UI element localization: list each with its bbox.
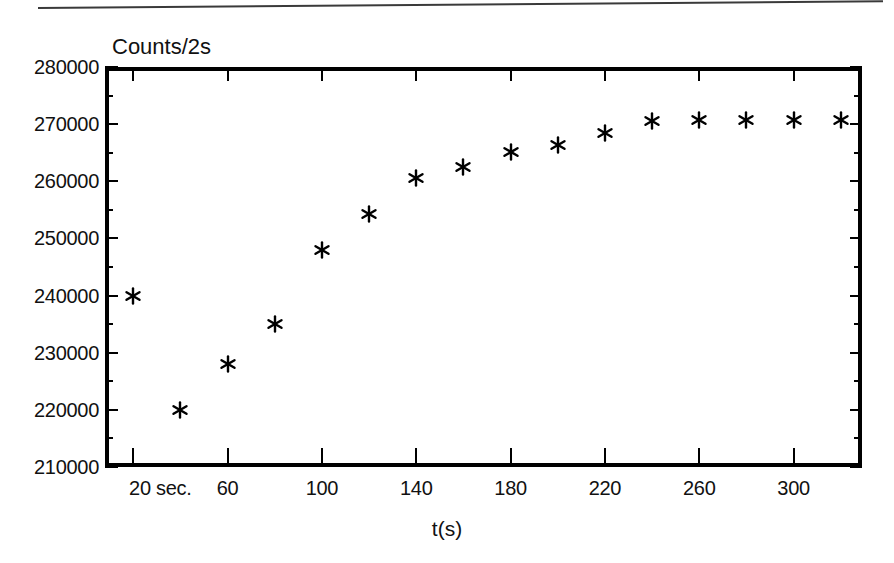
data-point-marker xyxy=(219,355,237,373)
x-axis-tick-label: 260 xyxy=(683,478,715,498)
data-point-marker xyxy=(785,111,803,129)
data-point-marker xyxy=(737,111,755,129)
x-axis-tick-label: 180 xyxy=(494,478,526,498)
data-point-marker xyxy=(454,158,472,176)
data-point-marker xyxy=(360,205,378,223)
data-point-marker xyxy=(643,112,661,130)
x-axis-tick-label: 60 xyxy=(217,478,239,498)
x-axis-tick-label: 20 sec. xyxy=(129,478,191,498)
data-point-marker xyxy=(407,169,425,187)
x-axis-tick-labels: 20 sec.60100140180220260300 xyxy=(0,0,894,563)
data-point-marker xyxy=(124,287,142,305)
x-axis-tick-label: 300 xyxy=(777,478,809,498)
x-axis-tick-label: 100 xyxy=(306,478,338,498)
x-axis-tick-label: 220 xyxy=(589,478,621,498)
data-point-marker xyxy=(313,241,331,259)
data-point-marker xyxy=(832,111,850,129)
x-axis-tick-label: 140 xyxy=(400,478,432,498)
data-point-marker xyxy=(266,315,284,333)
x-axis-title: t(s) xyxy=(432,518,462,539)
data-point-marker xyxy=(502,143,520,161)
data-point-marker xyxy=(596,124,614,142)
data-point-marker xyxy=(549,136,567,154)
data-point-marker xyxy=(690,111,708,129)
data-point-marker xyxy=(171,401,189,419)
chart-figure: Counts/2s 210000220000230000240000250000… xyxy=(0,0,894,563)
